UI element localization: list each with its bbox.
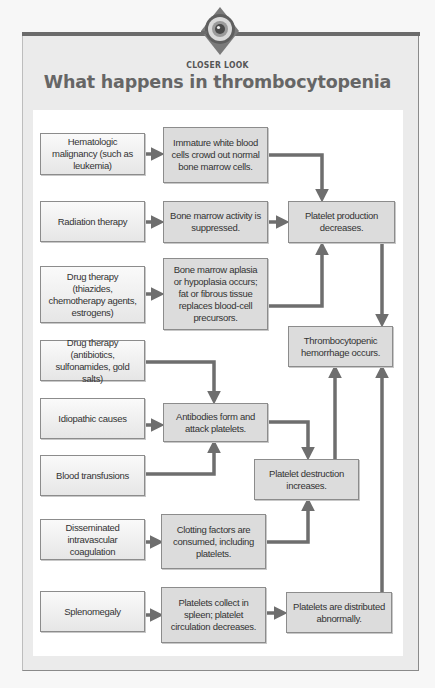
cause-drug-therapy-thiazides: Drug therapy (thiazides, chemotherapy ag… — [40, 266, 145, 323]
outcome-label: Platelet production decreases. — [294, 210, 389, 234]
cause-label: Disseminated intravascular coagulation — [46, 522, 139, 558]
mechanism-clotting-factors: Clotting factors are consumed, including… — [161, 514, 266, 569]
outcome-distributed-abnormally: Platelets are distributed abnormally. — [286, 592, 392, 633]
cause-drug-therapy-antibiotics: Drug therapy (antibiotics, sulfonamides,… — [40, 340, 145, 381]
mechanism-spleen-collect: Platelets collect in spleen; platelet ci… — [161, 587, 266, 643]
mechanism-label: Bone marrow aplasia or hypoplasia occurs… — [169, 264, 262, 324]
mechanism-label: Bone marrow activity is suppressed. — [169, 210, 262, 234]
mechanism-aplasia: Bone marrow aplasia or hypoplasia occurs… — [163, 258, 268, 330]
cause-hematologic-malignancy: Hematologic malignancy (such as leukemia… — [40, 133, 145, 175]
mechanism-label: Platelets collect in spleen; platelet ci… — [167, 597, 260, 633]
mechanism-immature-wbc: Immature white blood cells crowd out nor… — [163, 127, 268, 183]
outcome-destruction-increases: Platelet destruction increases. — [254, 459, 359, 500]
cause-label: Blood transfusions — [56, 470, 129, 482]
mechanism-label: Clotting factors are consumed, including… — [167, 524, 260, 560]
outcome-label: Platelet destruction increases. — [260, 468, 353, 492]
cause-radiation-therapy: Radiation therapy — [40, 201, 145, 242]
cause-label: Splenomegaly — [64, 606, 121, 618]
mechanism-label: Antibodies form and attack platelets. — [169, 411, 262, 435]
outcome-label: Platelets are distributed abnormally. — [292, 601, 386, 625]
cause-dic: Disseminated intravascular coagulation — [40, 519, 145, 560]
outcome-production-decreases: Platelet production decreases. — [288, 201, 395, 243]
mechanism-label: Immature white blood cells crowd out nor… — [169, 137, 262, 173]
outcome-hemorrhage: Thrombocytopenic hemorrhage occurs. — [288, 326, 393, 367]
cause-label: Drug therapy (thiazides, chemotherapy ag… — [46, 271, 139, 319]
cause-splenomegaly: Splenomegaly — [40, 591, 145, 632]
cause-label: Idiopathic causes — [58, 413, 126, 425]
cause-blood-transfusions: Blood transfusions — [40, 455, 145, 496]
cause-label: Radiation therapy — [58, 216, 127, 228]
mechanism-marrow-suppressed: Bone marrow activity is suppressed. — [163, 201, 268, 243]
cause-idiopathic: Idiopathic causes — [40, 398, 145, 439]
mechanism-antibodies: Antibodies form and attack platelets. — [163, 403, 268, 442]
cause-label: Hematologic malignancy (such as leukemia… — [46, 136, 139, 172]
cause-label: Drug therapy (antibiotics, sulfonamides,… — [46, 337, 139, 385]
outcome-label: Thrombocytopenic hemorrhage occurs. — [294, 335, 387, 359]
